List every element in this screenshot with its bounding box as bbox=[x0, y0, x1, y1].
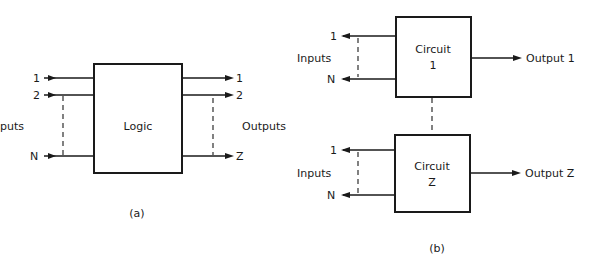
arrow-left-icon bbox=[341, 76, 350, 82]
circuit-z-input-label-n: N bbox=[327, 189, 335, 202]
arrow-left-icon bbox=[341, 33, 350, 39]
arrow-right-icon bbox=[225, 75, 234, 81]
arrow-right-icon bbox=[513, 55, 522, 61]
caption-b: (b) bbox=[429, 242, 445, 255]
circuit-1-output-label: Output 1 bbox=[526, 52, 575, 65]
circuit-z-block bbox=[395, 135, 470, 212]
caption-a: (a) bbox=[129, 207, 144, 220]
circuit-1-index: 1 bbox=[430, 59, 437, 72]
diagram-b: Circuit 1 1 N Inputs Output 1 Circuit Z … bbox=[297, 17, 575, 255]
input-label-n: N bbox=[30, 150, 38, 163]
arrow-left-icon bbox=[341, 147, 350, 153]
circuit-1-inputs-label: Inputs bbox=[297, 52, 331, 65]
circuit-z-title: Circuit bbox=[414, 160, 450, 173]
arrow-right-icon bbox=[48, 75, 56, 81]
arrow-right-icon bbox=[48, 92, 56, 98]
circuit-z-output-label: Output Z bbox=[525, 167, 575, 180]
logic-block-label: Logic bbox=[124, 120, 153, 133]
arrow-right-icon bbox=[48, 153, 56, 159]
output-wires: 1 2 Z bbox=[182, 72, 244, 163]
input-label-1: 1 bbox=[33, 72, 40, 85]
circuit-1-input-label-n: N bbox=[327, 73, 335, 86]
circuit-z-inputs-label: Inputs bbox=[297, 167, 331, 180]
arrow-right-icon bbox=[512, 170, 521, 176]
output-label-z: Z bbox=[236, 150, 244, 163]
input-label-2: 2 bbox=[33, 89, 40, 102]
diagram-canvas: Logic 1 2 N puts 1 2 Z bbox=[0, 0, 604, 265]
arrow-right-icon bbox=[225, 92, 234, 98]
output-label-1: 1 bbox=[236, 72, 243, 85]
circuit-z-index: Z bbox=[428, 176, 436, 189]
logic-block bbox=[94, 64, 182, 173]
diagram-a: Logic 1 2 N puts 1 2 Z bbox=[0, 64, 286, 220]
arrow-right-icon bbox=[225, 153, 234, 159]
inputs-label: puts bbox=[0, 120, 24, 133]
circuit-1: Circuit 1 1 N Inputs Output 1 bbox=[297, 17, 575, 97]
circuit-z: Circuit Z 1 N Inputs Output Z bbox=[297, 135, 575, 212]
circuit-1-input-label-1: 1 bbox=[330, 30, 337, 43]
arrow-left-icon bbox=[341, 192, 350, 198]
input-wires: 1 2 N bbox=[30, 72, 94, 163]
circuit-1-title: Circuit bbox=[415, 43, 451, 56]
outputs-label: Outputs bbox=[242, 120, 286, 133]
circuit-z-input-label-1: 1 bbox=[330, 144, 337, 157]
circuit-1-block bbox=[396, 17, 471, 97]
output-label-2: 2 bbox=[236, 89, 243, 102]
